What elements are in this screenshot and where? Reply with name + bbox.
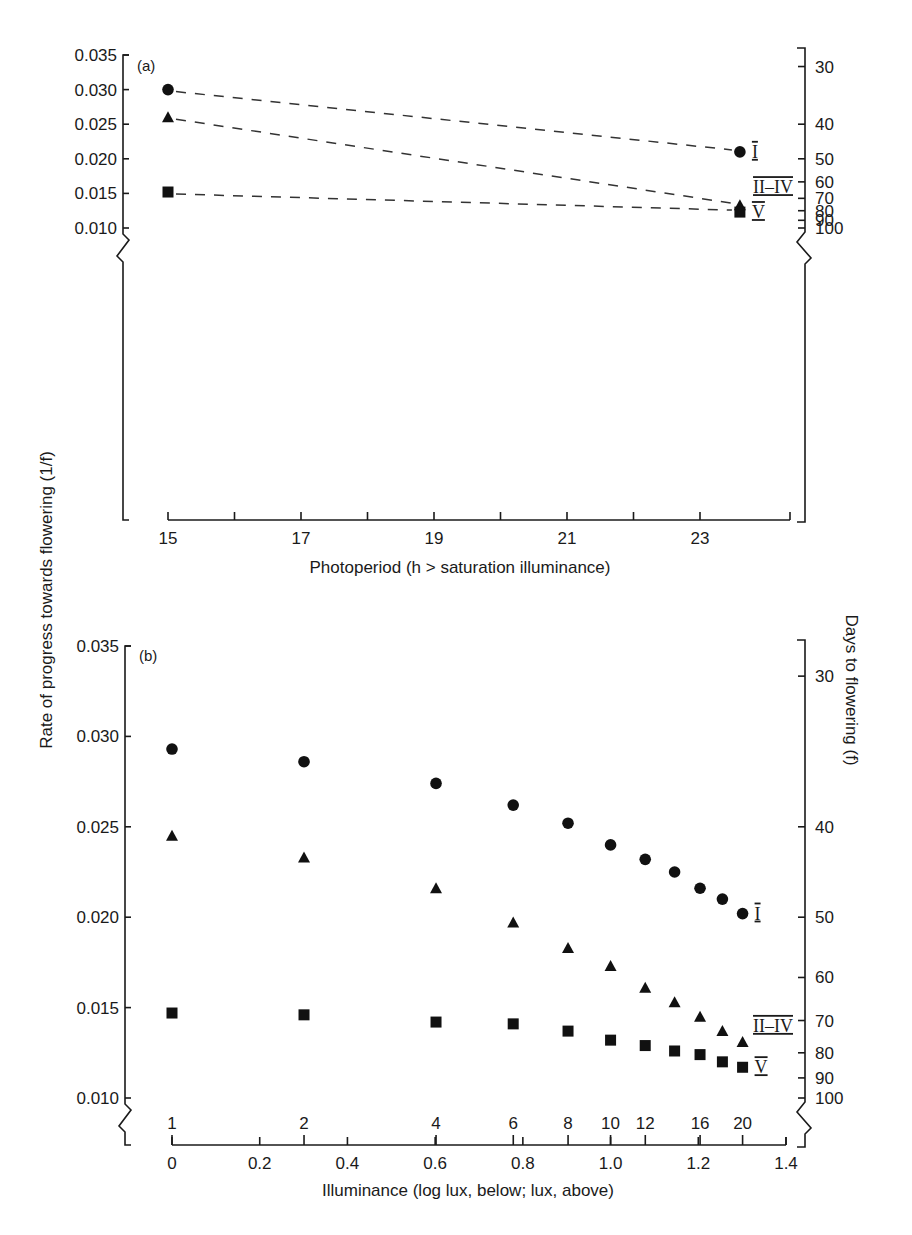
x-tick-label: 1.4 xyxy=(774,1154,798,1173)
right-y-tick-label: 100 xyxy=(815,1089,843,1108)
data-point-triangle xyxy=(639,982,651,993)
right-y-tick-label: 60 xyxy=(815,968,834,987)
right-y-tick-label: 30 xyxy=(815,667,834,686)
left-y-tick-label: 0.015 xyxy=(76,999,119,1018)
data-point-square xyxy=(563,1026,574,1037)
data-point-triangle xyxy=(298,852,310,863)
x-top-tick-label: 10 xyxy=(601,1114,620,1133)
left-y-tick-label: 0.030 xyxy=(76,727,119,746)
right-y-tick-label: 100 xyxy=(815,219,843,238)
left-y-tick-label: 0.035 xyxy=(76,637,119,656)
right-y-axis-line xyxy=(797,640,811,1147)
data-point-triangle xyxy=(562,942,574,953)
data-point-triangle xyxy=(162,111,174,122)
right-y-axis-line xyxy=(797,48,811,522)
left-y-tick-label: 0.010 xyxy=(74,219,117,238)
right-y-tick-label: 40 xyxy=(815,115,834,134)
left-y-tick-label: 0.010 xyxy=(76,1089,119,1108)
data-point-triangle xyxy=(694,1011,706,1022)
data-point-triangle xyxy=(669,996,681,1007)
right-axis-title: Days to flowering (f) xyxy=(842,614,861,765)
data-point-circle xyxy=(694,882,706,894)
x-tick-label: 0.2 xyxy=(248,1154,272,1173)
group-label-I: I xyxy=(755,904,761,924)
data-point-square xyxy=(737,1062,748,1073)
data-point-square xyxy=(163,187,174,198)
x-tick-label: 21 xyxy=(558,529,577,548)
x-top-tick-label: 4 xyxy=(431,1114,440,1133)
data-point-triangle xyxy=(605,960,617,971)
panel-a-x-axis-title: Photoperiod (h > saturation illuminance) xyxy=(310,558,611,577)
data-point-square xyxy=(167,1008,178,1019)
data-point-square xyxy=(734,207,745,218)
x-top-tick-label: 6 xyxy=(509,1114,518,1133)
group-label-I: I xyxy=(752,142,758,162)
panel-b-label: (b) xyxy=(139,647,157,664)
right-y-tick-label: 70 xyxy=(815,1012,834,1031)
data-point-square xyxy=(431,1017,442,1028)
data-point-square xyxy=(669,1045,680,1056)
x-top-tick-label: 1 xyxy=(167,1114,176,1133)
data-point-circle xyxy=(605,839,617,851)
data-point-triangle xyxy=(166,830,178,841)
data-point-circle xyxy=(639,854,651,866)
left-y-tick-label: 0.020 xyxy=(76,908,119,927)
x-tick-label: 0.6 xyxy=(423,1154,447,1173)
data-point-triangle xyxy=(430,882,442,893)
panel-a-label: (a) xyxy=(137,57,155,74)
data-point-triangle xyxy=(737,1036,749,1047)
right-y-tick-label: 40 xyxy=(815,818,834,837)
data-point-circle xyxy=(162,84,174,96)
left-y-tick-label: 0.025 xyxy=(76,818,119,837)
right-y-tick-label: 30 xyxy=(815,58,834,77)
panel-a-chart: (a) Photoperiod (h > saturation illumina… xyxy=(74,46,843,577)
left-y-tick-label: 0.020 xyxy=(74,150,117,169)
left-y-tick-label: 0.035 xyxy=(74,46,117,65)
group-label-II–IV: II–IV xyxy=(753,1016,793,1036)
data-point-circle xyxy=(737,908,749,920)
right-y-tick-label: 50 xyxy=(815,150,834,169)
left-y-axis-line xyxy=(119,646,131,1145)
right-y-tick-label: 80 xyxy=(815,1044,834,1063)
left-y-tick-label: 0.025 xyxy=(74,115,117,134)
data-point-square xyxy=(640,1040,651,1051)
panel-b-chart: (b) Illuminance (log lux, below; lux, ab… xyxy=(76,637,843,1200)
x-tick-label: 19 xyxy=(425,529,444,548)
data-point-square xyxy=(508,1018,519,1029)
right-y-tick-label: 50 xyxy=(815,908,834,927)
data-point-square xyxy=(695,1049,706,1060)
series-line-I xyxy=(176,92,732,150)
data-point-circle xyxy=(166,743,178,755)
data-point-circle xyxy=(669,866,681,878)
x-tick-label: 1.0 xyxy=(599,1154,623,1173)
x-tick-label: 0.4 xyxy=(336,1154,360,1173)
data-point-circle xyxy=(734,146,746,158)
data-point-circle xyxy=(507,799,519,811)
data-point-circle xyxy=(717,893,729,905)
left-axis-title: Rate of progress towards flowering (1/f) xyxy=(37,451,56,749)
data-point-triangle xyxy=(507,917,519,928)
group-label-V: V xyxy=(755,1057,768,1077)
data-point-circle xyxy=(298,756,310,768)
x-top-tick-label: 12 xyxy=(636,1114,655,1133)
x-tick-label: 23 xyxy=(691,529,710,548)
data-point-square xyxy=(299,1009,310,1020)
data-point-square xyxy=(717,1056,728,1067)
series-line-V xyxy=(176,194,732,210)
x-tick-label: 0.8 xyxy=(511,1154,535,1173)
data-point-triangle xyxy=(716,1025,728,1036)
series-line-II–IV xyxy=(176,119,732,203)
x-top-tick-label: 8 xyxy=(563,1114,572,1133)
right-y-tick-label: 90 xyxy=(815,1069,834,1088)
x-tick-label: 1.2 xyxy=(686,1154,710,1173)
left-y-tick-label: 0.030 xyxy=(74,81,117,100)
data-point-circle xyxy=(430,778,442,790)
x-tick-label: 0 xyxy=(167,1154,176,1173)
x-top-tick-label: 2 xyxy=(299,1114,308,1133)
figure-canvas: Rate of progress towards flowering (1/f)… xyxy=(0,0,912,1235)
x-tick-label: 15 xyxy=(159,529,178,548)
x-top-tick-label: 16 xyxy=(691,1114,710,1133)
group-label-V: V xyxy=(752,202,765,222)
group-label-II–IV: II–IV xyxy=(753,177,793,197)
x-tick-label: 17 xyxy=(292,529,311,548)
